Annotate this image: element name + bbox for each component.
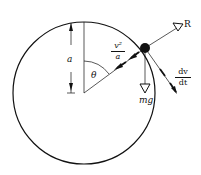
circle-diagram: [0, 0, 201, 175]
tangential-denominator: dt: [175, 79, 191, 87]
reaction-line: [145, 26, 180, 48]
tangential-acceleration-label: dv dt: [175, 68, 191, 87]
radius-label: a: [67, 55, 72, 64]
dimension-arrow-top: [69, 23, 73, 31]
angle-label: θ: [91, 71, 96, 80]
centripetal-acceleration-label: v² a: [111, 42, 125, 61]
weight-label: mg: [139, 96, 153, 105]
weight-arrow-icon: [140, 84, 150, 93]
angle-arc: [84, 61, 109, 74]
tangential-arrow-1: [160, 69, 165, 76]
reaction-label: R: [184, 20, 191, 29]
centripetal-numerator: v²: [111, 42, 125, 50]
tangential-numerator: dv: [175, 68, 191, 76]
dimension-arrow-bottom: [69, 83, 73, 91]
particle: [140, 43, 150, 53]
centripetal-denominator: a: [111, 53, 125, 61]
